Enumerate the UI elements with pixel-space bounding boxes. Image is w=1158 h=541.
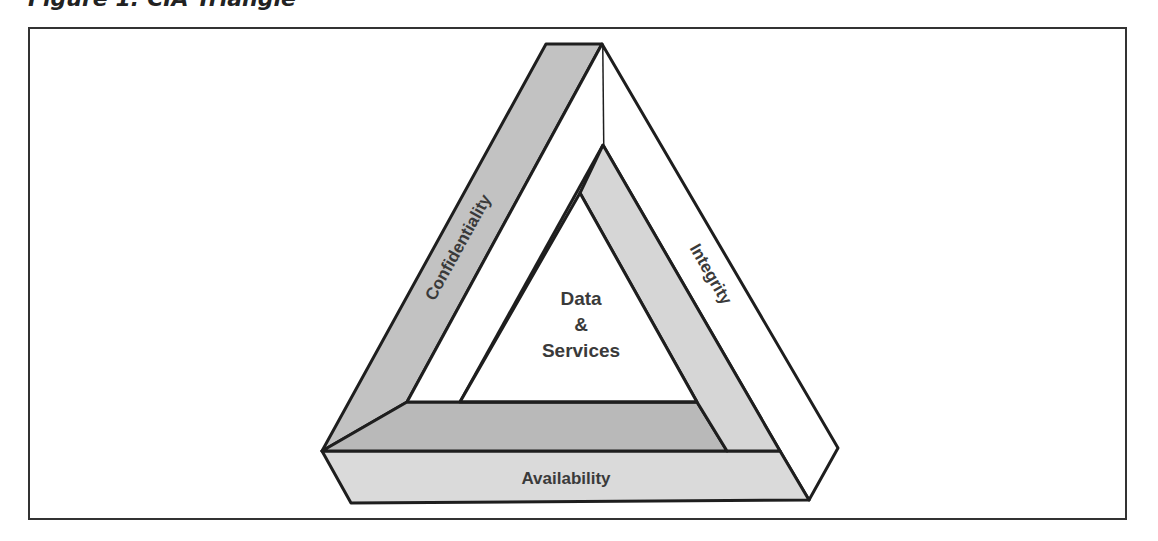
cia-triangle-diagram: Confidentiality Integrity Availability D… <box>0 0 1158 541</box>
availability-label: Availability <box>521 469 611 488</box>
center-label-data: Data <box>560 288 602 309</box>
center-label-ampersand: & <box>574 314 588 335</box>
center-label-services: Services <box>542 340 620 361</box>
